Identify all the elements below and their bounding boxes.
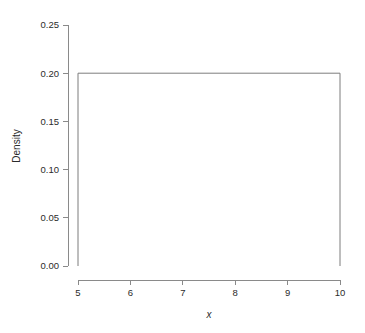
y-tick-label: 0.15 [41, 116, 60, 127]
density-series-group [78, 73, 340, 266]
y-axis-title: Density [11, 129, 22, 162]
y-tick-label: 0.10 [41, 164, 60, 175]
x-tick-label: 8 [233, 287, 238, 298]
plot-canvas: 0.000.050.100.150.200.25 5678910 Density… [0, 0, 365, 333]
y-axis-ticks [63, 25, 68, 266]
x-tick-label: 5 [75, 287, 80, 298]
y-tick-label: 0.00 [41, 260, 60, 271]
x-tick-label: 9 [285, 287, 290, 298]
density-line [78, 73, 340, 266]
y-tick-label: 0.25 [41, 19, 60, 30]
y-tick-label: 0.20 [41, 68, 60, 79]
y-axis-tick-labels: 0.000.050.100.150.200.25 [41, 19, 60, 271]
x-axis-title: x [206, 309, 213, 320]
x-tick-label: 7 [180, 287, 185, 298]
x-tick-label: 10 [335, 287, 346, 298]
x-tick-label: 6 [128, 287, 133, 298]
x-axis-ticks [78, 280, 340, 285]
density-plot: 0.000.050.100.150.200.25 5678910 Density… [0, 0, 365, 333]
y-tick-label: 0.05 [41, 212, 60, 223]
x-axis-tick-labels: 5678910 [75, 287, 345, 298]
